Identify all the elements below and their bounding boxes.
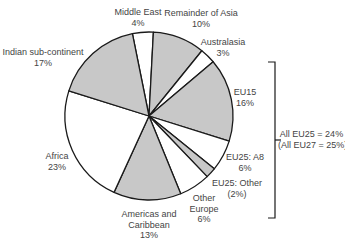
slice-label-line: 6% [226,163,264,174]
slice-label-line: Middle East [114,7,161,18]
slice-label-line: Australasia [201,37,246,48]
slice-label: OtherEurope6% [189,193,218,225]
annotation-line-1: All EU25 = 24% [278,129,345,140]
slice-label-line: EU15 [234,87,257,98]
slice-label: EU1516% [234,87,257,108]
slice-label-line: Remainder of Asia [164,8,238,19]
eu25-annotation: All EU25 = 24% (All EU27 = 25%) [278,129,345,150]
slice-label-line: Americas and [121,209,176,220]
slice-label: EU25: Other(2%) [212,178,262,199]
slice-label: Africa23% [45,151,68,172]
slice-label-line: 23% [45,162,68,173]
slice-label-line: Indian sub-continent [2,47,83,58]
slice-label-line: EU25: A8 [226,152,264,163]
slice-label-line: Caribbean [121,220,176,231]
slice-label-line: Europe [189,204,218,215]
slice-label-line: EU25: Other [212,178,262,189]
slice-label: Americas andCaribbean13% [121,209,176,241]
slice-label: EU25: A86% [226,152,264,173]
pie-chart [0,0,345,242]
slice-label: Indian sub-continent17% [2,47,83,68]
annotation-line-2: (All EU27 = 25%) [278,140,345,151]
slice-label-line: 3% [201,48,246,59]
slice-label-line: 13% [121,230,176,241]
slice-label-line: 16% [234,98,257,109]
slice-label: Middle East4% [114,7,161,28]
slice-label: Australasia3% [201,37,246,58]
slice-label-line: 4% [114,18,161,29]
slice-label: Remainder of Asia10% [164,8,238,29]
slice-label-line: Africa [45,151,68,162]
slice-label-line: 17% [2,58,83,69]
slice-label-line: (2%) [212,189,262,200]
slice-label-line: 6% [189,214,218,225]
slice-label-line: Other [189,193,218,204]
slice-label-line: 10% [164,19,238,30]
